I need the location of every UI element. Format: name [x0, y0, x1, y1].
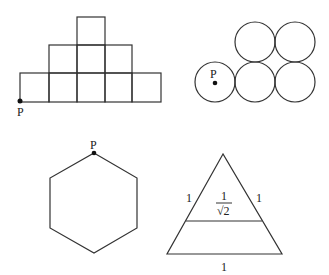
square: [20, 73, 49, 102]
circles-point-label: P: [210, 67, 217, 81]
point-p-marker: [18, 99, 23, 104]
circle: [235, 62, 275, 102]
squares-figure: [20, 17, 161, 102]
figures-svg: P P P 1 1 1 √2 1: [0, 0, 329, 275]
square: [132, 73, 161, 102]
square: [77, 45, 105, 73]
square: [105, 45, 132, 73]
fraction-numerator: 1: [221, 189, 227, 203]
square: [77, 73, 105, 102]
square: [49, 73, 77, 102]
circle: [275, 22, 315, 62]
hexagon-figure: [50, 153, 137, 253]
square: [77, 17, 105, 45]
fraction-denominator: √2: [217, 204, 230, 218]
circle: [235, 22, 275, 62]
triangle-left-side-label: 1: [186, 191, 192, 205]
hexagon-point-label: P: [90, 138, 97, 152]
circles-figure: [195, 22, 315, 102]
circle: [275, 62, 315, 102]
geometry-figures: P P P 1 1 1 √2 1: [0, 0, 329, 275]
square: [49, 45, 77, 73]
square: [105, 73, 132, 102]
point-p-marker: [213, 81, 218, 86]
squares-point-label: P: [17, 105, 24, 119]
triangle-base-label: 1: [221, 260, 227, 274]
triangle-right-side-label: 1: [256, 191, 262, 205]
